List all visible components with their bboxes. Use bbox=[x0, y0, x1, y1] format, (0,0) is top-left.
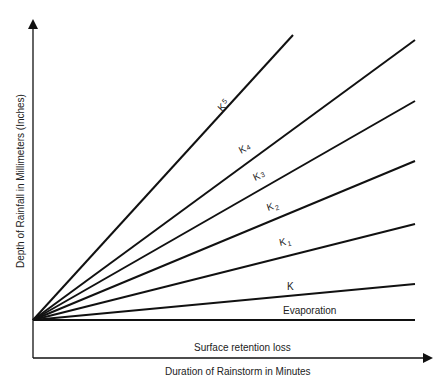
k2-label: K2 bbox=[265, 199, 280, 214]
evaporation-label: Evaporation bbox=[283, 305, 336, 316]
svg-text:K1: K1 bbox=[278, 235, 292, 249]
k3-line bbox=[33, 101, 415, 320]
k-label: K bbox=[287, 281, 294, 292]
x-axis-title: Duration of Rainstorm in Minutes bbox=[165, 366, 311, 377]
k1-label: K1 bbox=[278, 235, 292, 249]
rainfall-depth-diagram: K5 K4 K3 K2 K1 K Evaporation Surface ret… bbox=[0, 0, 441, 390]
k4-line bbox=[33, 40, 415, 320]
k3-label: K3 bbox=[251, 168, 266, 183]
k1-line bbox=[33, 224, 415, 320]
y-axis-title: Depth of Rainfall in Millimeters (Inches… bbox=[15, 94, 26, 268]
svg-text:K4: K4 bbox=[237, 141, 252, 156]
k-line bbox=[33, 284, 415, 320]
surface-retention-loss-label: Surface retention loss bbox=[194, 342, 291, 353]
svg-text:K2: K2 bbox=[265, 199, 280, 214]
k2-line bbox=[33, 161, 415, 320]
k4-label: K4 bbox=[237, 141, 252, 156]
svg-text:K3: K3 bbox=[251, 168, 266, 183]
